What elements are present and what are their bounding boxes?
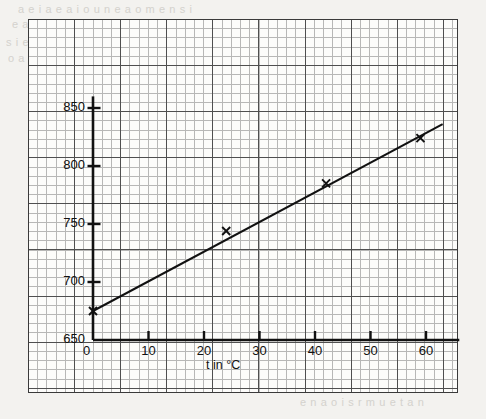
x-tick-label-40: 40	[300, 343, 330, 358]
series-group	[89, 124, 443, 315]
axes-group	[88, 96, 460, 340]
y-tick-label-800: 800	[45, 157, 85, 172]
x-axis-title: t in °C	[206, 358, 240, 372]
screenshot-canvas: a e i a e a i o u n e a o m e n s i e a …	[0, 0, 486, 419]
x-tick-label-10: 10	[134, 343, 164, 358]
y-tick-label-650: 650	[45, 331, 85, 346]
data-point-0-1	[222, 227, 230, 235]
x-tick-label-50: 50	[356, 343, 386, 358]
x-tick-label-0: 0	[83, 343, 113, 358]
y-tick-label-750: 750	[45, 215, 85, 230]
x-tick-label-30: 30	[245, 343, 275, 358]
x-tick-label-60: 60	[411, 343, 441, 358]
x-tick-label-20: 20	[189, 343, 219, 358]
y-tick-label-700: 700	[45, 273, 85, 288]
series-line-0	[93, 124, 443, 311]
y-tick-label-850: 850	[45, 99, 85, 114]
